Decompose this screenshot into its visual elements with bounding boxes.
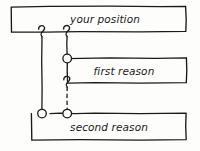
box-first-reason-label: first reason xyxy=(94,65,155,77)
connector-position-to-second-reason-hook xyxy=(39,26,45,37)
connector-position-to-second-reason[interactable] xyxy=(38,26,47,118)
connector-position-to-second-reason-endpoint xyxy=(38,109,47,118)
box-second-reason-label: second reason xyxy=(70,121,148,133)
diagram-canvas: your position first reason second reason xyxy=(0,0,200,151)
box-first-reason[interactable]: first reason xyxy=(67,58,187,83)
connector-position-to-first-reason-hook xyxy=(64,26,70,37)
box-your-position[interactable]: your position xyxy=(11,6,186,32)
argument-diagram: your position first reason second reason xyxy=(0,0,200,151)
connector-position-to-first-reason-endpoint xyxy=(63,54,72,63)
box-second-reason[interactable]: second reason xyxy=(31,113,186,140)
box-your-position-label: your position xyxy=(69,13,140,25)
connector-first-reason-to-second-reason-endpoint xyxy=(63,109,72,118)
